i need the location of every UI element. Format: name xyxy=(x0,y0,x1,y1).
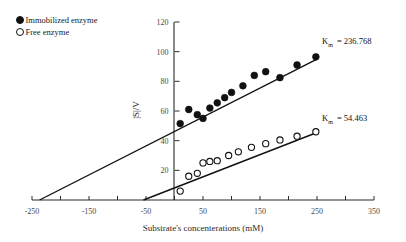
y-axis: 20406080100120 |S|/V xyxy=(131,18,180,200)
data-point xyxy=(177,120,184,127)
data-point xyxy=(206,105,213,112)
data-point xyxy=(207,158,213,164)
y-tick-label: 100 xyxy=(157,48,169,57)
y-tick-label: 80 xyxy=(161,77,169,86)
data-point xyxy=(294,133,300,139)
data-point xyxy=(294,62,301,69)
data-point xyxy=(277,74,284,81)
data-point xyxy=(214,99,221,106)
x-tick-label: -50 xyxy=(141,207,152,216)
data-point xyxy=(240,82,247,89)
data-point xyxy=(200,160,206,166)
km-immobilized-value: = 236.768 xyxy=(335,36,372,46)
data-point xyxy=(228,89,235,96)
x-axis: -250-150-5050150250350 Substrate's conce… xyxy=(25,196,380,233)
x-axis-title: Substrate's concenterations (mM) xyxy=(143,223,264,233)
x-axis-tick-labels: -250-150-5050150250350 xyxy=(25,207,380,216)
data-point xyxy=(313,129,319,135)
data-point xyxy=(186,173,192,179)
x-tick-label: -150 xyxy=(82,207,97,216)
x-tick-label: 50 xyxy=(199,207,207,216)
x-tick-label: 150 xyxy=(254,207,266,216)
x-tick-label: -250 xyxy=(25,207,40,216)
data-point xyxy=(226,152,232,158)
x-axis-ticks xyxy=(32,196,374,200)
data-point xyxy=(221,94,228,101)
data-point xyxy=(248,144,254,150)
km-free-value: = 54.463 xyxy=(335,113,367,123)
lineweaver-hanes-plot-figure: Immobilized enzyme Free enzyme -250-150-… xyxy=(0,0,406,242)
y-axis-title: |S|/V xyxy=(131,101,141,119)
data-point xyxy=(277,137,283,143)
x-tick-label: 250 xyxy=(311,207,323,216)
fit-line-immobilized-enzyme xyxy=(40,59,317,200)
fit-line-free-enzyme xyxy=(143,133,317,200)
km-free-subscript: m xyxy=(328,119,333,125)
svg-text:Km = 54.463: Km = 54.463 xyxy=(322,113,367,125)
y-tick-label: 20 xyxy=(161,166,169,175)
km-immobilized-subscript: m xyxy=(328,42,333,48)
data-point xyxy=(177,188,183,194)
data-point xyxy=(200,115,207,122)
annotation-km-immobilized: Km = 236.768 xyxy=(322,36,371,48)
y-tick-label: 120 xyxy=(157,18,169,27)
data-point xyxy=(262,68,269,75)
data-point xyxy=(263,141,269,147)
y-axis-tick-labels: 20406080100120 xyxy=(157,18,169,175)
series-data-points xyxy=(177,53,319,194)
annotation-km-free: Km = 54.463 xyxy=(322,113,367,125)
y-tick-label: 60 xyxy=(161,107,169,116)
data-point xyxy=(235,149,241,155)
y-axis-ticks xyxy=(175,22,180,170)
x-tick-label: 350 xyxy=(368,207,380,216)
data-point xyxy=(185,106,192,113)
series-fit-lines xyxy=(40,59,317,200)
data-point xyxy=(214,158,220,164)
data-point xyxy=(194,170,200,176)
series-immobilized-enzyme xyxy=(177,53,319,127)
series-free-enzyme xyxy=(177,129,319,195)
plot-canvas: -250-150-5050150250350 Substrate's conce… xyxy=(0,0,406,242)
data-point xyxy=(251,72,258,79)
data-point xyxy=(312,53,319,60)
svg-text:Km = 236.768: Km = 236.768 xyxy=(322,36,371,48)
